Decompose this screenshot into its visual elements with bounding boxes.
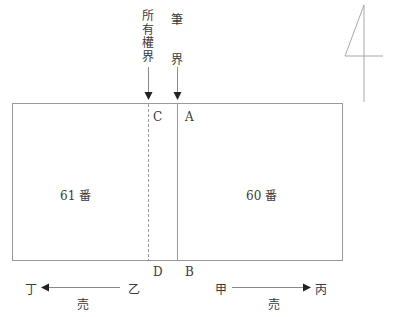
sale-label-left: 売 (77, 295, 89, 312)
lot-60: 60 番 (246, 186, 277, 203)
point-c: C (153, 110, 162, 124)
left-arrow-icon (41, 284, 120, 292)
direction-ding: 丁 (25, 280, 37, 297)
plan-drawing (0, 0, 393, 317)
right-arrow-icon (232, 284, 311, 292)
point-b: B (185, 265, 194, 279)
direction-hei: 丙 (315, 280, 327, 297)
parcel-boundary-label-bottom: 界 (171, 50, 183, 67)
lot-61: 61 番 (60, 186, 91, 203)
ownership-boundary-label: 所有權界 (141, 10, 155, 64)
ownership-boundary-arrow-icon (145, 67, 153, 100)
parcel-boundary-label-top: 筆 (171, 10, 183, 27)
parcel-boundary-arrow-icon (174, 67, 182, 100)
sale-label-right: 売 (268, 295, 280, 312)
direction-ko: 甲 (215, 280, 227, 297)
point-d: D (153, 265, 163, 279)
direction-otsu: 乙 (128, 280, 140, 297)
north-symbol-icon (345, 5, 383, 102)
point-a: A (185, 110, 194, 124)
